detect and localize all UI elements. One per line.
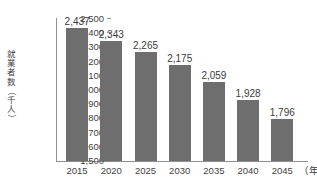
bar	[66, 28, 88, 161]
bar	[271, 119, 293, 161]
bar	[169, 65, 191, 161]
bar-value-label: 1,928	[230, 88, 266, 99]
bar-value-label: 2,265	[128, 40, 164, 51]
bar-value-label: 1,796	[264, 107, 300, 118]
x-axis-tick-label: 2025	[128, 165, 164, 176]
x-axis-tick-label: 2045	[264, 165, 300, 176]
x-axis-tick-label: 2020	[93, 165, 129, 176]
bars-layer: 2,43720152,34320202,26520252,17520302,05…	[56, 0, 317, 191]
bar-value-label: 2,059	[196, 70, 232, 81]
x-axis-tick-label: 2040	[230, 165, 266, 176]
x-axis-unit-label: （年）	[299, 165, 317, 176]
x-axis-tick-label: 2030	[162, 165, 198, 176]
bar	[203, 82, 225, 161]
x-axis-tick-label: 2035	[196, 165, 232, 176]
bar-value-label: 2,437	[59, 16, 95, 27]
y-axis-ticks: 2,5002,4002,3002,2002,1002,0001,9001,800…	[0, 0, 56, 191]
bar-value-label: 2,343	[93, 29, 129, 40]
bar	[100, 41, 122, 161]
x-axis-tick-label: 2015	[59, 165, 95, 176]
bar	[237, 100, 259, 161]
bar-value-label: 2,175	[162, 53, 198, 64]
bar-chart: 就業者数（千人） 2,5002,4002,3002,2002,1002,0001…	[0, 0, 317, 191]
bar	[135, 52, 157, 161]
